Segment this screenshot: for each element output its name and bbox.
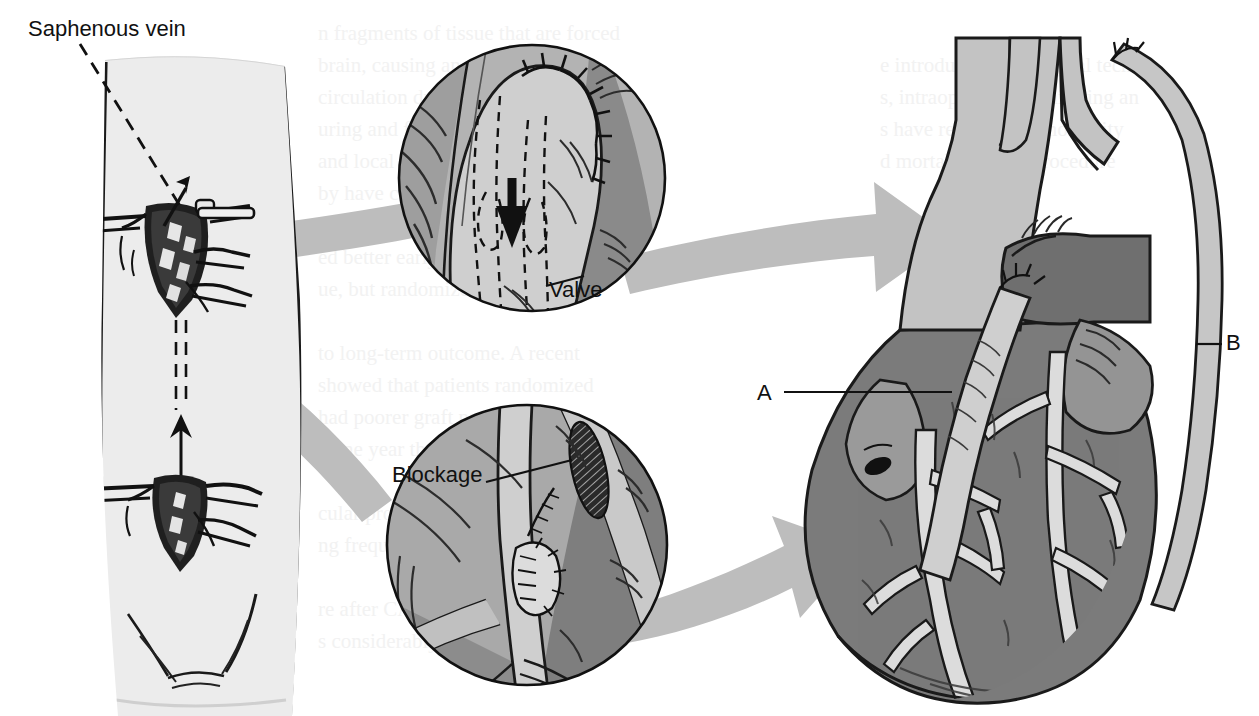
figure-canvas: n fragments of tissue that are forced br…	[0, 0, 1259, 716]
label-marker-b: B	[1226, 332, 1241, 354]
label-blockage: Blockage	[392, 464, 483, 486]
donor-leg-panel	[28, 56, 302, 716]
svg-text:showed that patients randomize: showed that patients randomized	[318, 373, 594, 397]
illustration-artwork: n fragments of tissue that are forced br…	[0, 0, 1259, 716]
heart-panel	[784, 38, 1222, 703]
label-marker-a: A	[757, 382, 772, 404]
label-valve: Valve	[549, 279, 602, 301]
svg-text:to long-term outcome. A recent: to long-term outcome. A recent	[318, 341, 580, 365]
swoosh-valve-inset-to-heart	[620, 182, 952, 294]
label-saphenous-vein: Saphenous vein	[28, 18, 186, 40]
svg-text:n fragments of tissue that are: n fragments of tissue that are forced	[318, 21, 621, 45]
